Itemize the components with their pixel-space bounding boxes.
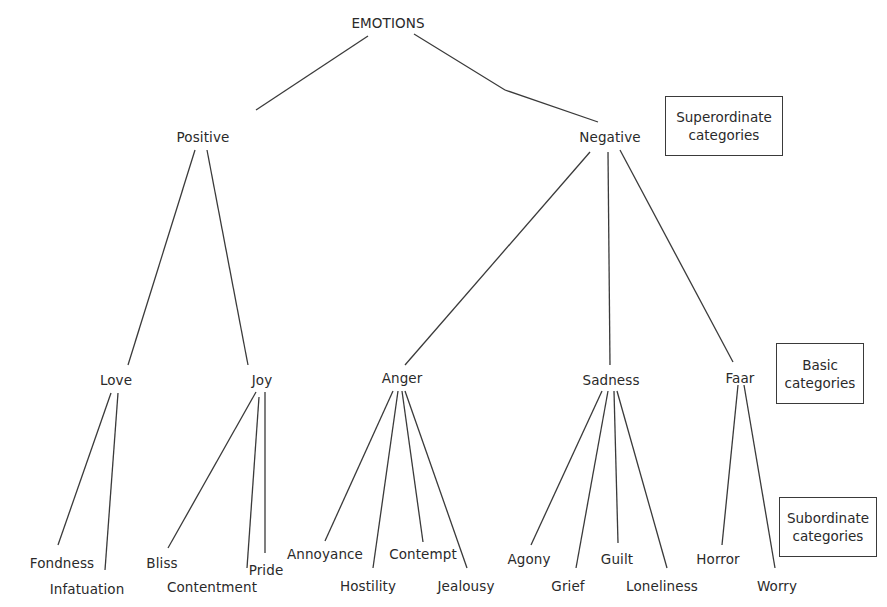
node-loneliness: Loneliness — [626, 578, 698, 594]
node-anger: Anger — [382, 370, 423, 386]
tree-edge — [207, 150, 248, 365]
node-worry: Worry — [757, 578, 797, 594]
legend-basic-categories: Basic categories — [776, 343, 864, 404]
node-pride: Pride — [249, 562, 284, 578]
node-bliss: Bliss — [146, 555, 177, 571]
legend-subordinate-categories: Subordinate categories — [779, 497, 877, 557]
tree-edge — [608, 152, 610, 365]
tree-edge — [105, 393, 118, 570]
node-agony: Agony — [507, 551, 550, 567]
legend-line2: categories — [780, 527, 876, 545]
tree-edge — [58, 393, 111, 545]
tree-edge — [414, 34, 505, 90]
node-love: Love — [100, 372, 132, 388]
tree-edge — [617, 391, 667, 568]
node-jealousy: Jealousy — [438, 578, 495, 594]
node-contempt: Contempt — [389, 546, 457, 562]
tree-edge — [620, 150, 733, 362]
node-fear: Faar — [725, 370, 754, 386]
legend-line1: Basic — [777, 356, 863, 374]
tree-edges — [0, 0, 887, 607]
tree-edge — [744, 385, 775, 568]
tree-edge — [722, 385, 738, 545]
tree-edge — [128, 150, 195, 365]
tree-edge — [168, 392, 256, 548]
node-joy: Joy — [252, 372, 273, 388]
legend-line1: Subordinate — [780, 509, 876, 527]
tree-edge — [247, 397, 259, 568]
tree-edge — [505, 90, 598, 122]
tree-edge — [256, 36, 368, 110]
node-sadness: Sadness — [582, 372, 639, 388]
tree-edge — [614, 391, 618, 543]
tree-edge — [325, 391, 393, 541]
node-negative: Negative — [579, 129, 640, 145]
tree-edge — [576, 391, 608, 568]
legend-line2: categories — [777, 374, 863, 392]
legend-line2: categories — [666, 126, 782, 144]
node-positive: Positive — [177, 129, 230, 145]
node-guilt: Guilt — [601, 551, 633, 567]
tree-edge — [405, 152, 590, 365]
tree-edge — [373, 391, 398, 568]
node-emotions-root: EMOTIONS — [351, 15, 424, 31]
tree-edge — [531, 391, 602, 545]
node-contentment: Contentment — [167, 579, 257, 595]
node-fondness: Fondness — [30, 555, 94, 571]
node-hostility: Hostility — [340, 578, 396, 594]
node-annoyance: Annoyance — [287, 546, 363, 562]
legend-line1: Superordinate — [666, 108, 782, 126]
node-grief: Grief — [551, 578, 584, 594]
node-horror: Horror — [696, 551, 739, 567]
legend-superordinate-categories: Superordinate categories — [665, 96, 783, 156]
node-infatuation: Infatuation — [50, 581, 125, 597]
